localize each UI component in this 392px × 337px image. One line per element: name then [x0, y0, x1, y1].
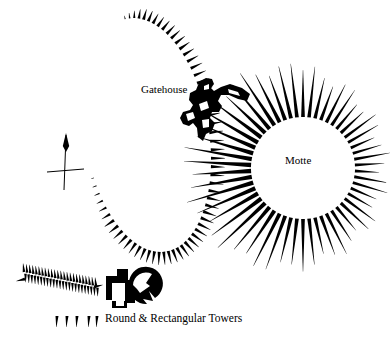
site-plan-drawing: [0, 0, 392, 337]
motte-label: Motte: [285, 154, 311, 166]
towers-caption-label: Round & Rectangular Towers: [105, 312, 242, 324]
plan-background: [0, 0, 392, 337]
gatehouse-label: Gatehouse: [141, 83, 187, 95]
site-plan-figure: Gatehouse Motte Round & Rectangular Towe…: [0, 0, 392, 337]
